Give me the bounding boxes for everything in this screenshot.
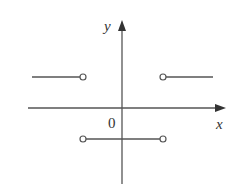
open-circle-icon: [160, 74, 166, 80]
segment-lower-middle: [80, 136, 166, 142]
x-axis: [28, 104, 226, 112]
x-axis-arrow-icon: [215, 104, 226, 112]
y-axis-arrow-icon: [118, 20, 126, 31]
segment-upper-right: [160, 74, 213, 80]
function-graph: y x 0: [0, 0, 232, 184]
x-axis-label: x: [215, 116, 223, 132]
open-circle-icon: [80, 136, 86, 142]
y-axis: [118, 20, 126, 184]
y-axis-label: y: [102, 18, 111, 34]
open-circle-icon: [160, 136, 166, 142]
open-circle-icon: [80, 74, 86, 80]
origin-label: 0: [108, 115, 116, 131]
segment-upper-left: [32, 74, 86, 80]
